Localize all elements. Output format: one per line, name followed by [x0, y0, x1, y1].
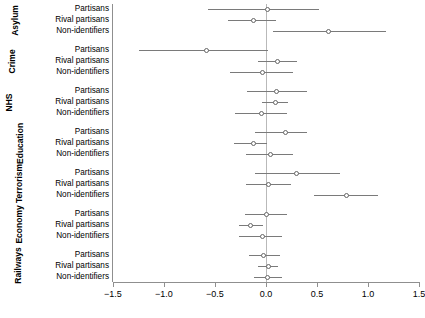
x-axis-tick — [368, 282, 369, 287]
x-axis-tick — [317, 282, 318, 287]
point-estimate-marker — [344, 193, 349, 198]
x-axis-tick-label: −1.0 — [155, 289, 173, 299]
x-axis-tick — [113, 282, 114, 287]
point-estimate-marker — [326, 29, 331, 34]
label-column: AsylumPartisansRival partisansNon-identi… — [0, 0, 113, 318]
forest-plot: AsylumPartisansRival partisansNon-identi… — [0, 0, 425, 318]
row-category-label: Partisans — [9, 45, 113, 55]
row-category-label: Rival partisans — [9, 261, 113, 271]
row-category-label: Partisans — [9, 250, 113, 260]
row-category-label: Non-identifiers — [9, 67, 113, 77]
x-axis-tick-label: −0.5 — [206, 289, 224, 299]
point-estimate-marker — [264, 212, 269, 217]
x-axis-tick — [164, 282, 165, 287]
point-estimate-marker — [275, 59, 280, 64]
point-estimate-marker — [251, 18, 256, 23]
row-category-label: Partisans — [9, 4, 113, 14]
x-axis-tick-label: −1.5 — [104, 289, 122, 299]
point-estimate-marker — [265, 275, 270, 280]
x-axis-tick-label: 1.5 — [413, 289, 425, 299]
point-estimate-marker — [248, 223, 253, 228]
point-estimate-marker — [283, 130, 288, 135]
row-category-label: Non-identifiers — [9, 272, 113, 282]
row-category-label: Non-identifiers — [9, 149, 113, 159]
point-estimate-marker — [260, 234, 265, 239]
row-category-label: Partisans — [9, 86, 113, 96]
y-axis-line — [112, 4, 113, 282]
point-estimate-marker — [204, 48, 209, 53]
point-estimate-marker — [266, 182, 271, 187]
confidence-interval — [255, 132, 307, 133]
confidence-interval — [139, 50, 269, 51]
row-category-label: Rival partisans — [9, 56, 113, 66]
row-category-label: Partisans — [9, 209, 113, 219]
x-axis-tick — [266, 282, 267, 287]
row-category-label: Non-identifiers — [9, 108, 113, 118]
x-axis-tick — [215, 282, 216, 287]
x-axis-tick — [419, 282, 420, 287]
row-category-label: Rival partisans — [9, 220, 113, 230]
x-axis-tick-label: 1.0 — [362, 289, 375, 299]
row-category-label: Non-identifiers — [9, 231, 113, 241]
row-category-label: Non-identifiers — [9, 190, 113, 200]
x-axis-tick-label: 0.5 — [311, 289, 324, 299]
row-category-label: Partisans — [9, 127, 113, 137]
point-estimate-marker — [260, 70, 265, 75]
row-category-label: Rival partisans — [9, 138, 113, 148]
point-estimate-marker — [268, 152, 273, 157]
row-category-label: Non-identifiers — [9, 26, 113, 36]
confidence-interval — [208, 9, 319, 10]
x-axis-tick-label: 0.0 — [260, 289, 273, 299]
row-category-label: Rival partisans — [9, 15, 113, 25]
plot-area — [113, 4, 419, 282]
point-estimate-marker — [266, 264, 271, 269]
point-estimate-marker — [251, 141, 256, 146]
point-estimate-marker — [273, 100, 278, 105]
row-category-label: Rival partisans — [9, 179, 113, 189]
point-estimate-marker — [274, 89, 279, 94]
point-estimate-marker — [294, 171, 299, 176]
row-category-label: Rival partisans — [9, 97, 113, 107]
row-category-label: Partisans — [9, 168, 113, 178]
point-estimate-marker — [259, 111, 264, 116]
